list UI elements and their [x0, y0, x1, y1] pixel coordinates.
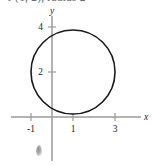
scan-artifact-smudge — [36, 145, 42, 156]
y-tick-label-2: 2 — [38, 67, 43, 77]
circle-curve — [31, 30, 115, 114]
y-axis-label: y — [49, 6, 55, 16]
circle-graph-figure: r (1, 2), radius 2 -1 1 3 2 4 y x — [0, 0, 154, 166]
x-tick-label-1: 1 — [71, 124, 76, 134]
x-tick-label-minus1: -1 — [27, 124, 35, 134]
y-tick-label-4: 4 — [38, 22, 43, 32]
x-axis-label: x — [143, 112, 149, 122]
coordinate-plane: -1 1 3 2 4 y x — [0, 0, 154, 166]
x-tick-label-3: 3 — [113, 124, 118, 134]
